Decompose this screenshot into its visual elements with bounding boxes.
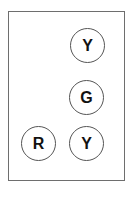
token-circle-bottom-right: Y	[69, 126, 104, 161]
token-label: R	[33, 136, 45, 152]
token-label: Y	[82, 38, 93, 54]
token-circle-bottom-left: R	[21, 126, 56, 161]
token-circle-top: Y	[70, 28, 105, 63]
token-circle-middle: G	[69, 80, 104, 115]
token-label: G	[80, 90, 92, 106]
token-label: Y	[81, 136, 92, 152]
